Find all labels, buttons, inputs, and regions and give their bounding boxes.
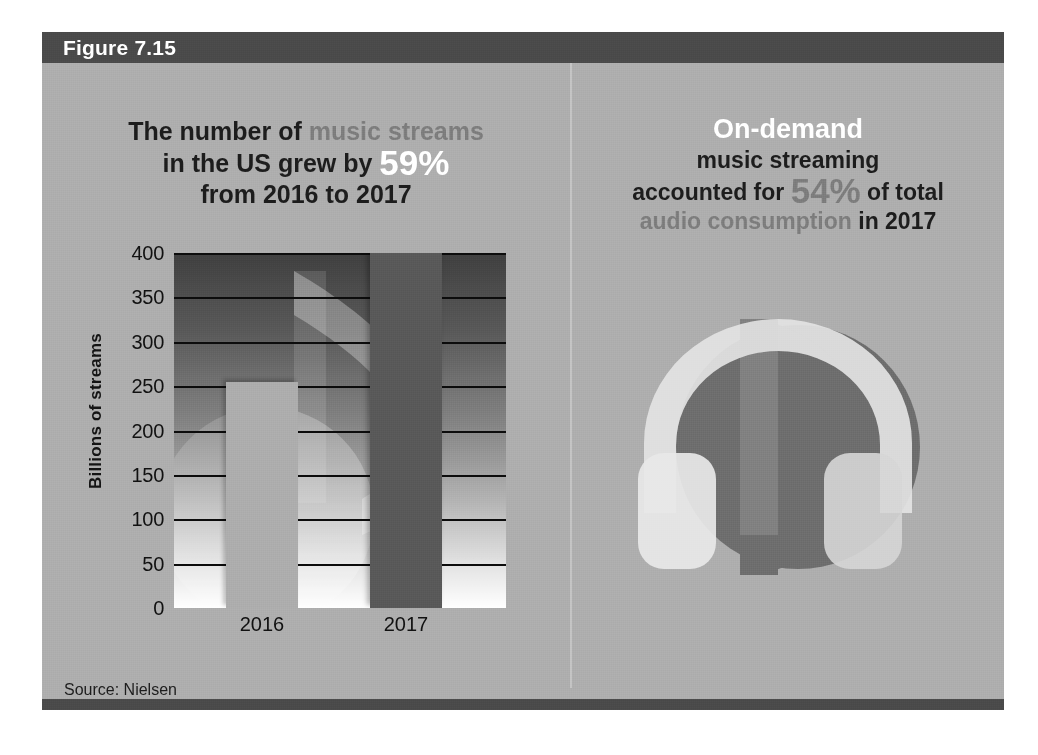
right-panel: On-demand music streaming accounted for …: [572, 63, 1004, 699]
figure-label: Figure 7.15: [63, 36, 176, 60]
right-headline-line-4b: in 2017: [852, 208, 936, 234]
left-headline-line-2a: in the US grew by: [163, 149, 380, 177]
gridline: [174, 386, 506, 388]
right-headline-line-3: accounted for 54% of total: [578, 175, 998, 207]
gridline: [174, 475, 506, 477]
x-tick-label: 2017: [346, 613, 466, 636]
y-tick-label: 350: [102, 286, 164, 309]
gridline: [174, 519, 506, 521]
bar-2016: [226, 382, 298, 608]
x-axis-tick-labels: 20162017: [174, 613, 506, 643]
y-tick-label: 0: [102, 597, 164, 620]
figure-header-bar: Figure 7.15: [42, 32, 1004, 63]
y-tick-label: 100: [102, 508, 164, 531]
right-headline: On-demand music streaming accounted for …: [578, 113, 998, 235]
bar-2017: [370, 253, 442, 608]
gridline: [174, 342, 506, 344]
y-tick-label: 150: [102, 463, 164, 486]
figure-container: Figure 7.15 The number of music streams …: [42, 32, 1004, 710]
source-note: Source: Nielsen: [64, 681, 177, 699]
headphones-icon: [628, 285, 958, 597]
right-headline-line-3c: of total: [861, 179, 944, 205]
left-headline-line-1: The number of music streams: [56, 116, 556, 147]
plot-area: [174, 253, 506, 608]
y-tick-label: 250: [102, 375, 164, 398]
right-headline-line-1: On-demand: [578, 113, 998, 146]
gridline: [174, 297, 506, 299]
x-tick-label: 2016: [202, 613, 322, 636]
gridline: [174, 431, 506, 433]
right-headline-highlight-54-percent: 54%: [791, 171, 861, 210]
left-panel: The number of music streams in the US gr…: [42, 63, 570, 699]
y-tick-label: 300: [102, 330, 164, 353]
y-tick-label: 400: [102, 242, 164, 265]
right-headline-line-4: audio consumption in 2017: [578, 207, 998, 236]
left-headline-highlight-music-streams: music streams: [309, 117, 484, 145]
y-axis-tick-labels: 400350300250200150100500: [102, 223, 164, 623]
right-headline-highlight-on-demand: On-demand: [713, 114, 863, 144]
bar-chart: Billions of streams 40035030025020015010…: [42, 223, 570, 643]
figure-footer-bar: [42, 699, 1004, 710]
left-headline: The number of music streams in the US gr…: [56, 116, 556, 210]
y-tick-label: 200: [102, 419, 164, 442]
left-headline-line-1a: The number of: [128, 117, 309, 145]
gridline: [174, 253, 506, 255]
y-tick-label: 50: [102, 552, 164, 575]
gridline: [174, 564, 506, 566]
right-headline-highlight-audio-consumption: audio consumption: [640, 208, 852, 234]
left-headline-highlight-59-percent: 59%: [379, 143, 449, 182]
right-headline-line-2: music streaming: [578, 146, 998, 175]
left-headline-line-2: in the US grew by 59%: [56, 147, 556, 179]
right-headline-line-3a: accounted for: [632, 179, 790, 205]
left-headline-line-3: from 2016 to 2017: [56, 179, 556, 210]
